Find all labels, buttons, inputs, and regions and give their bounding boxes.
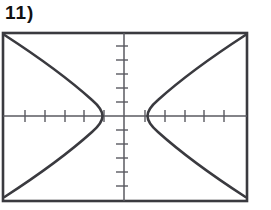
graph-svg — [0, 30, 250, 204]
hyperbola-graph-figure — [0, 30, 250, 204]
problem-number-label: 11) — [5, 1, 34, 25]
